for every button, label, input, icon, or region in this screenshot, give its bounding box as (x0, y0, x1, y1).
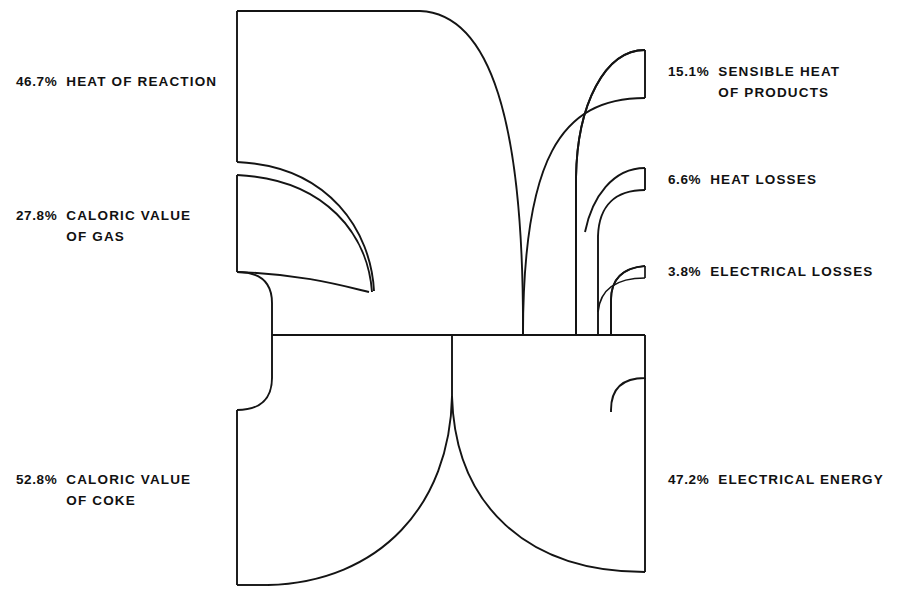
flow-band-heat-losses-divider (585, 168, 645, 232)
label-electrical-energy: 47.2% ELECTRICAL ENERGY (668, 470, 884, 491)
label-heat-of-reaction-name: HEAT OF REACTION (66, 72, 217, 93)
hub-right-edge-lower (611, 335, 645, 410)
label-caloric-value-coke-name: CALORIC VALUE OF COKE (66, 470, 191, 511)
label-caloric-value-gas: 27.8% CALORIC VALUE OF GAS (16, 206, 191, 247)
label-heat-of-reaction-percent: 46.7% (16, 72, 57, 93)
flow-band-sensible-heat-outer (576, 50, 645, 335)
label-electrical-losses-percent: 3.8% (668, 262, 701, 283)
hub-left-edge (237, 272, 272, 335)
label-caloric-value-coke: 52.8% CALORIC VALUE OF COKE (16, 470, 191, 511)
flow-band-electrical-losses-outer (598, 278, 645, 312)
label-sensible-heat-products-name: SENSIBLE HEAT OF PRODUCTS (718, 62, 840, 103)
label-electrical-energy-percent: 47.2% (668, 470, 709, 491)
hub-right-edge-upper (611, 266, 645, 335)
label-heat-losses-name: HEAT LOSSES (710, 170, 817, 191)
sankey-diagram: 46.7% HEAT OF REACTION 27.8% CALORIC VAL… (0, 0, 907, 601)
label-heat-losses: 6.6% HEAT LOSSES (668, 170, 817, 191)
label-electrical-losses-name: ELECTRICAL LOSSES (710, 262, 873, 283)
label-caloric-value-coke-percent: 52.8% (16, 470, 57, 491)
flow-band-heat-losses-outer (576, 50, 645, 335)
label-electrical-losses: 3.8% ELECTRICAL LOSSES (668, 262, 874, 283)
label-caloric-value-gas-percent: 27.8% (16, 206, 57, 227)
label-sensible-heat-products: 15.1% SENSIBLE HEAT OF PRODUCTS (668, 62, 840, 103)
label-heat-losses-percent: 6.6% (668, 170, 701, 191)
flow-band-heat-losses-inner (598, 190, 645, 335)
flow-band-electrical-energy-arc (452, 396, 645, 572)
label-sensible-heat-products-percent: 15.1% (668, 62, 709, 83)
label-electrical-energy-name: ELECTRICAL ENERGY (718, 470, 884, 491)
flow-band-caloric-gas-outer (237, 175, 372, 292)
hub-left-edge-lower (237, 335, 272, 410)
flow-band-sensible-heat-inner (523, 98, 645, 335)
label-heat-of-reaction: 46.7% HEAT OF REACTION (16, 72, 217, 93)
flow-band-heat-of-reaction-outer (237, 11, 523, 335)
flow-band-electrical-losses-inner (611, 266, 645, 335)
flow-band-heat-of-reaction-inner (237, 162, 374, 291)
flow-band-caloric-coke-arc (268, 396, 452, 585)
label-caloric-value-gas-name: CALORIC VALUE OF GAS (66, 206, 191, 247)
